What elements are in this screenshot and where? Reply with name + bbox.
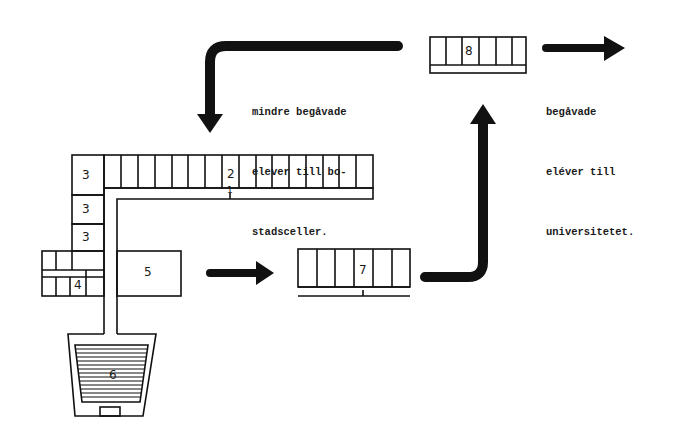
label-building-3b: 3 — [82, 202, 90, 216]
arrow-5-to-7 — [210, 261, 274, 285]
caption-less-gifted-line2: elever till bo- — [252, 162, 347, 182]
label-building-3a: 3 — [82, 168, 90, 182]
caption-less-gifted-line1: mindre begåvade — [252, 102, 347, 122]
caption-gifted-line2: eléver till — [546, 162, 634, 182]
caption-less-gifted: mindre begåvade elever till bo- stadscel… — [252, 62, 347, 262]
label-building-4: 4 — [74, 278, 82, 292]
label-building-7: 7 — [359, 263, 367, 277]
building-8 — [430, 37, 526, 73]
label-building-3c: 3 — [82, 230, 90, 244]
caption-gifted-line1: begåvade — [546, 102, 634, 122]
label-building-2: 2 — [227, 167, 235, 181]
arrow-7-to-8 — [425, 104, 496, 277]
label-building-6: 6 — [109, 368, 117, 382]
label-building-1: 1 — [227, 185, 233, 195]
arrow-8-to-university — [546, 36, 625, 61]
caption-gifted: begåvade eléver till universitetet. — [546, 62, 634, 262]
caption-less-gifted-line3: stadsceller. — [252, 222, 347, 242]
building-4 — [42, 251, 104, 296]
label-building-5: 5 — [144, 265, 152, 279]
caption-gifted-line3: universitetet. — [546, 222, 634, 242]
label-building-8: 8 — [465, 44, 473, 58]
